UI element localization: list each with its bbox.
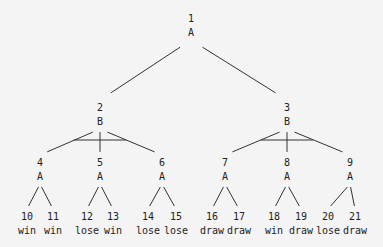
node-number: 3 [284, 102, 290, 113]
node-player-label: A [37, 171, 43, 182]
leaf-outcome: lose [316, 225, 340, 236]
node-number: 7 [222, 157, 228, 168]
leaf-outcome: draw [227, 225, 251, 236]
game-tree-diagram: 1A2B3B4A5A6A7A8A9A10win11win12lose13win1… [0, 0, 383, 247]
node-player-label: A [97, 171, 103, 182]
tree-edge [289, 187, 300, 206]
tree-edge [47, 132, 93, 152]
tree-edge [164, 187, 175, 206]
leaf-number: 20 [322, 211, 334, 222]
node-number: 6 [159, 157, 165, 168]
leaf-number: 12 [81, 211, 93, 222]
leaf-number: 11 [47, 211, 59, 222]
tree-edge [150, 187, 161, 206]
tree-edge [351, 187, 355, 206]
tree-edge [276, 187, 286, 206]
node-number: 4 [37, 157, 43, 168]
tree-edge [42, 187, 52, 206]
node-number: 9 [347, 157, 353, 168]
node-number: 8 [284, 157, 290, 168]
leaf-outcome: draw [200, 225, 224, 236]
tree-edge [227, 187, 238, 206]
node-player-label: B [97, 116, 103, 127]
node-number: 1 [188, 13, 194, 24]
leaf-outcome: draw [289, 225, 313, 236]
leaf-outcome: lose [164, 225, 188, 236]
leaf-number: 18 [268, 211, 280, 222]
leaf-number: 13 [107, 211, 119, 222]
leaf-number: 19 [295, 211, 307, 222]
tree-edge [295, 132, 343, 152]
node-player-label: A [347, 171, 353, 182]
tree-edge [107, 132, 154, 152]
leaf-outcome: lose [75, 225, 99, 236]
leaf-outcome: win [44, 225, 62, 236]
leaf-outcome: win [18, 225, 36, 236]
tree-edge [89, 187, 99, 206]
node-player-label: A [284, 171, 290, 182]
node-number: 2 [97, 102, 103, 113]
tree-edge [203, 47, 276, 93]
tree-edge [29, 187, 39, 206]
node-player-label: A [222, 171, 228, 182]
tree-edge [102, 187, 112, 206]
tree-edge [214, 187, 224, 206]
tree-edge [331, 187, 348, 206]
leaf-number: 15 [170, 211, 182, 222]
node-number: 5 [97, 157, 103, 168]
leaf-outcome: win [104, 225, 122, 236]
node-player-label: A [188, 27, 194, 38]
leaf-number: 14 [142, 211, 154, 222]
leaf-number: 16 [206, 211, 218, 222]
leaf-outcome: lose [136, 225, 160, 236]
tree-edge [232, 132, 279, 152]
node-player-label: A [159, 171, 165, 182]
leaf-number: 21 [349, 211, 361, 222]
leaf-number: 10 [21, 211, 33, 222]
tree-edge [111, 47, 180, 93]
leaf-outcome: draw [343, 225, 367, 236]
leaf-outcome: win [265, 225, 283, 236]
leaf-number: 17 [233, 211, 245, 222]
node-player-label: B [284, 116, 290, 127]
